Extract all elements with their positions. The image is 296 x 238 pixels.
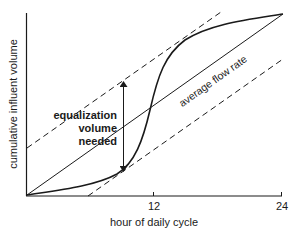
equalization-label-1: equalization <box>53 109 117 121</box>
x-axis-label: hour of daily cycle <box>110 216 198 228</box>
average-flow-label: average flow rate <box>176 52 249 108</box>
x-tick-label-24: 24 <box>276 200 288 212</box>
lower-tangent-dashed <box>88 59 283 196</box>
mass-diagram: cumulative influent volume hour of daily… <box>0 0 296 238</box>
x-tick-label-12: 12 <box>148 200 160 212</box>
equalization-label-3: needed <box>78 135 117 147</box>
average-flow-line <box>27 14 283 195</box>
y-axis-label: cumulative influent volume <box>7 39 19 169</box>
equalization-label-2: volume <box>78 122 117 134</box>
